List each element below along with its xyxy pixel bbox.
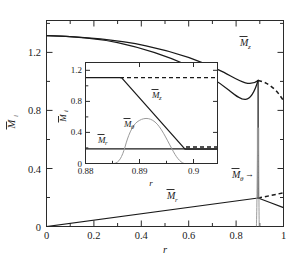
main-x-ticklabels: 0 0.2 0.4 0.6 0.8 1 [44, 230, 286, 241]
label-mtheta-arrow-icon: → [245, 169, 254, 179]
inset-y-ticklabels: 0 0.4 0.8 1.2 [71, 65, 83, 168]
inset-ytick-04: 0.4 [71, 127, 83, 137]
inset-xtick-09: 0.9 [188, 166, 200, 176]
inset-ylabel-subscript: i [62, 110, 69, 112]
curve-mz-dashed [258, 80, 283, 101]
main-xtick-0: 0 [44, 230, 49, 241]
main-ytick-12: 1.2 [28, 47, 41, 58]
label-mz-main-sub: z [247, 43, 251, 51]
main-ytick-04: 0.4 [28, 164, 42, 175]
main-xtick-06: 0.6 [182, 230, 195, 241]
main-xtick-08: 0.8 [230, 230, 243, 241]
inset-ylabel-text: M [58, 114, 68, 123]
curve-mr-solid-rising [47, 198, 259, 227]
main-xtick-04: 0.4 [135, 230, 149, 241]
label-mr-main: M r [166, 190, 178, 204]
curve-mtheta-spike-left [256, 128, 257, 227]
label-mr-main-sub: r [175, 196, 178, 204]
main-xtick-1: 1 [281, 230, 286, 241]
figure-container: 0 0.4 0.8 1.2 M i [0, 0, 308, 259]
inset-ytick-12: 1.2 [71, 65, 82, 75]
main-xlabel: r [163, 244, 168, 255]
main-ylabel-text: M [6, 118, 17, 129]
inset-xlabel: r [149, 178, 153, 188]
inset-xtick-089: 0.89 [132, 166, 148, 176]
inset-ytick-08: 0.8 [71, 96, 83, 106]
main-ytick-08: 0.8 [28, 105, 41, 116]
inset-label-mz-sub: z [158, 94, 162, 101]
label-mtheta-main-sub: θ [240, 175, 244, 183]
label-mtheta-main: M θ → [231, 169, 254, 183]
inset-xtick-088: 0.88 [78, 166, 94, 176]
curve-mtheta-spike-right [259, 128, 260, 227]
main-ylabel-subscript: i [12, 115, 20, 117]
inset-y-axis-title: M i [58, 110, 69, 123]
curve-mr-solid-after [258, 198, 283, 208]
curve-mr-dashed-after [258, 193, 283, 198]
label-mz-main: M z [239, 37, 251, 51]
main-y-axis-title: M i [6, 115, 20, 130]
main-ytick-0: 0 [36, 222, 41, 233]
chart-svg: 0 0.4 0.8 1.2 M i [0, 0, 308, 259]
inset-axes: 0 0.4 0.8 1.2 M i [58, 63, 218, 189]
main-xtick-02: 0.2 [87, 230, 100, 241]
main-y-ticklabels: 0 0.4 0.8 1.2 [28, 47, 42, 232]
inset-x-ticklabels: 0.88 0.89 0.9 [78, 166, 200, 176]
